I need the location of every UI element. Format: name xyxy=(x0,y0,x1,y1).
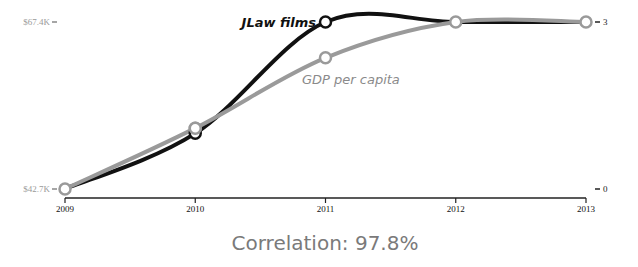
series-lines xyxy=(65,14,586,189)
x-tick-label: 2010 xyxy=(186,204,205,214)
series-line-gdp xyxy=(65,19,586,189)
series-points xyxy=(60,17,592,195)
correlation-chart: 20092010201120122013 $42.7K$67.4K 03 JLa… xyxy=(0,0,638,267)
series-label-gdp: GDP per capita xyxy=(302,72,400,87)
x-tick-label: 2013 xyxy=(577,204,596,214)
data-point-gdp xyxy=(320,52,331,63)
series-line-jlaw xyxy=(65,14,586,189)
data-point-gdp xyxy=(190,123,201,134)
x-axis: 20092010201120122013 xyxy=(56,198,596,214)
data-point-gdp xyxy=(450,17,461,28)
x-tick-label: 2009 xyxy=(56,204,75,214)
data-point-gdp xyxy=(60,184,71,195)
left-y-tick-label: $67.4K xyxy=(23,17,50,27)
series-label-jlaw: JLaw films xyxy=(239,15,317,30)
right-y-tick-label: 0 xyxy=(603,184,608,194)
x-tick-label: 2012 xyxy=(447,204,465,214)
data-point-gdp xyxy=(581,17,592,28)
right-y-axis: 03 xyxy=(595,17,608,194)
left-y-axis: $42.7K$67.4K xyxy=(23,17,57,194)
data-point-jlaw xyxy=(320,17,331,28)
x-tick-label: 2011 xyxy=(317,204,335,214)
left-y-tick-label: $42.7K xyxy=(23,184,50,194)
right-y-tick-label: 3 xyxy=(603,17,608,27)
correlation-annotation: Correlation: 97.8% xyxy=(232,231,419,255)
